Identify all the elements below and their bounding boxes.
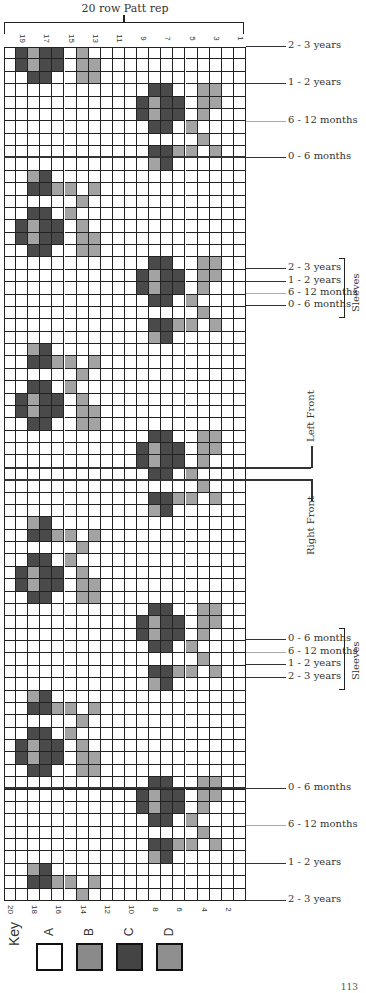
chart-cell — [28, 666, 40, 678]
chart-cell — [77, 653, 89, 665]
chart-cell — [173, 480, 185, 492]
chart-cell — [198, 394, 210, 406]
chart-cell — [52, 121, 64, 133]
chart-cell — [186, 493, 198, 505]
chart-cell — [234, 592, 246, 604]
chart-cell — [16, 381, 28, 393]
chart-cell — [186, 282, 198, 294]
chart-cell — [161, 369, 173, 381]
chart-cell — [222, 319, 234, 331]
chart-cell — [101, 307, 113, 319]
chart-cell — [77, 666, 89, 678]
chart-cell — [65, 72, 77, 84]
chart-cell — [16, 233, 28, 245]
chart-cell — [101, 530, 113, 542]
chart-cell — [234, 827, 246, 839]
chart-cell — [198, 257, 210, 269]
chart-cell — [101, 592, 113, 604]
size-label: 6 - 12 months — [288, 286, 358, 297]
chart-cell — [173, 282, 185, 294]
chart-cell — [52, 889, 64, 901]
chart-cell — [16, 530, 28, 542]
chart-cell — [198, 233, 210, 245]
chart-cell — [198, 629, 210, 641]
chart-cell — [113, 480, 125, 492]
chart-cell — [89, 443, 101, 455]
chart-cell — [161, 802, 173, 814]
chart-cell — [210, 196, 222, 208]
chart-cell — [40, 740, 52, 752]
chart-cell — [28, 344, 40, 356]
chart-cell — [161, 196, 173, 208]
chart-cell — [161, 208, 173, 220]
chart-cell — [28, 567, 40, 579]
chart-cell — [4, 121, 16, 133]
chart-cell — [89, 802, 101, 814]
key-swatch-a — [36, 943, 63, 971]
chart-cell — [16, 455, 28, 467]
chart-cell — [137, 455, 149, 467]
chart-cell — [101, 480, 113, 492]
chart-cell — [186, 752, 198, 764]
chart-cell — [137, 740, 149, 752]
chart-cell — [125, 827, 137, 839]
chart-cell — [234, 740, 246, 752]
chart-cell — [77, 567, 89, 579]
chart-cell — [28, 827, 40, 839]
size-label: 2 - 3 years — [288, 670, 341, 681]
chart-cell — [161, 72, 173, 84]
chart-cell — [4, 814, 16, 826]
chart-cell — [52, 134, 64, 146]
chart-cell — [77, 678, 89, 690]
chart-cell — [161, 406, 173, 418]
size-leader-line — [246, 825, 286, 826]
chart-cell — [186, 431, 198, 443]
chart-cell — [173, 629, 185, 641]
chart-cell — [52, 307, 64, 319]
chart-cell — [89, 851, 101, 863]
chart-cell — [234, 703, 246, 715]
chart-cell — [198, 196, 210, 208]
chart-cell — [52, 245, 64, 257]
chart-cell — [137, 604, 149, 616]
chart-cell — [16, 641, 28, 653]
chart-cell — [89, 653, 101, 665]
chart-cell — [149, 295, 161, 307]
chart-cell — [65, 641, 77, 653]
chart-cell — [161, 282, 173, 294]
chart-cell — [137, 493, 149, 505]
chart-cell — [161, 567, 173, 579]
chart-cell — [210, 332, 222, 344]
chart-cell — [222, 480, 234, 492]
chart-cell — [16, 72, 28, 84]
column-number: 17 — [42, 32, 51, 46]
chart-cell — [149, 431, 161, 443]
chart-cell — [113, 814, 125, 826]
chart-cell — [149, 889, 161, 901]
chart-cell — [4, 183, 16, 195]
chart-cell — [28, 629, 40, 641]
chart-cell — [65, 233, 77, 245]
chart-cell — [234, 208, 246, 220]
chart-cell — [125, 443, 137, 455]
chart-cell — [52, 220, 64, 232]
chart-cell — [65, 691, 77, 703]
chart-cell — [113, 369, 125, 381]
chart-cell — [210, 480, 222, 492]
right-front-label: Right Front — [305, 496, 316, 555]
key-letter: C — [122, 925, 136, 939]
chart-cell — [77, 604, 89, 616]
chart-cell — [125, 356, 137, 368]
chart-cell — [222, 517, 234, 529]
chart-cell — [161, 84, 173, 96]
chart-cell — [125, 480, 137, 492]
chart-cell — [125, 876, 137, 888]
chart-cell — [52, 295, 64, 307]
chart-cell — [125, 47, 137, 59]
chart-cell — [113, 851, 125, 863]
chart-cell — [65, 257, 77, 269]
chart-cell — [210, 678, 222, 690]
chart-cell — [4, 59, 16, 71]
chart-cell — [125, 703, 137, 715]
chart-cell — [65, 381, 77, 393]
